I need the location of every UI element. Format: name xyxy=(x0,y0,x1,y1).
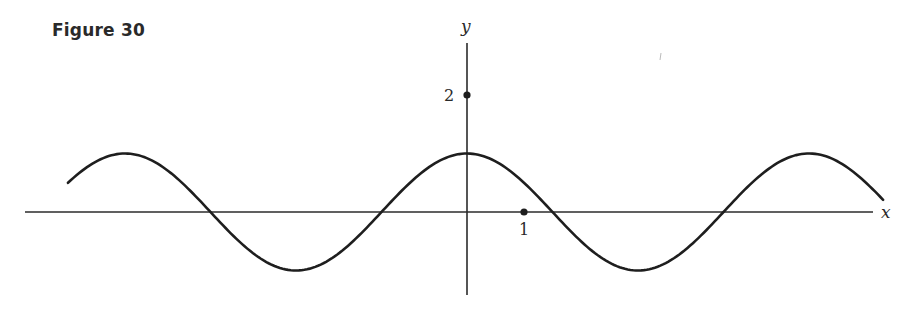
point-x-1 xyxy=(520,208,527,215)
tick-label-y-2: 2 xyxy=(444,86,454,105)
x-axis-label: x xyxy=(881,202,891,222)
chart-canvas: x y 2 1 xyxy=(0,0,916,309)
scan-speck xyxy=(660,53,661,60)
y-axis-label: y xyxy=(460,16,471,36)
tick-label-x-1: 1 xyxy=(519,220,529,239)
point-y-2 xyxy=(463,91,470,98)
